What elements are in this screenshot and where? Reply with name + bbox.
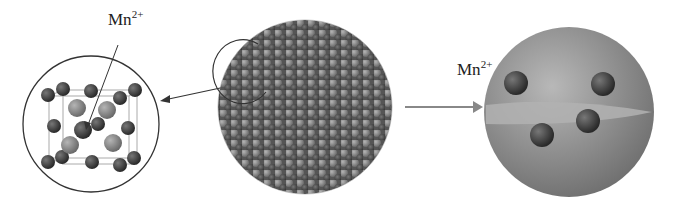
unit-cell-inset [23,45,159,192]
doped-quantum-dot [484,27,654,197]
arrow-to-inset [160,87,225,103]
nanocrystal-cluster [213,20,392,194]
arrow-to-dot [405,101,483,113]
diagram-canvas [0,0,682,213]
